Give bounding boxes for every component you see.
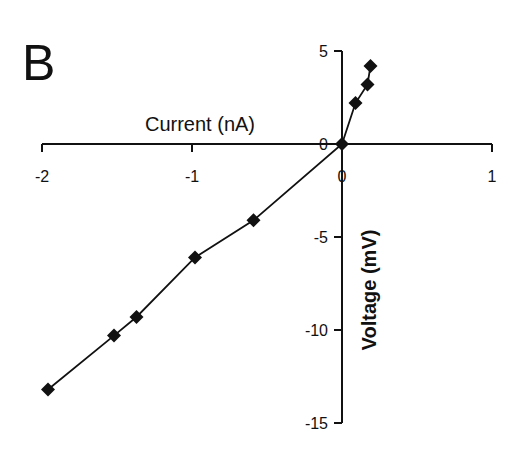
y-tick-label: 0 bbox=[319, 136, 328, 153]
x-axis-label: Current (nA) bbox=[145, 113, 255, 135]
iv-chart: -2-10150-5-10-15Current (nA)Voltage (mV) bbox=[0, 0, 518, 452]
y-tick-label: -15 bbox=[305, 415, 328, 432]
y-tick-label: -10 bbox=[305, 322, 328, 339]
data-point-marker bbox=[349, 96, 363, 110]
y-tick-label: -5 bbox=[314, 229, 328, 246]
x-tick-label: 1 bbox=[488, 168, 497, 185]
y-tick-label: 5 bbox=[319, 43, 328, 60]
data-point-marker bbox=[364, 59, 378, 73]
data-point-marker bbox=[361, 77, 375, 91]
x-tick-label: -1 bbox=[185, 168, 199, 185]
x-tick-label: -2 bbox=[35, 168, 49, 185]
y-axis-label: Voltage (mV) bbox=[358, 230, 380, 351]
